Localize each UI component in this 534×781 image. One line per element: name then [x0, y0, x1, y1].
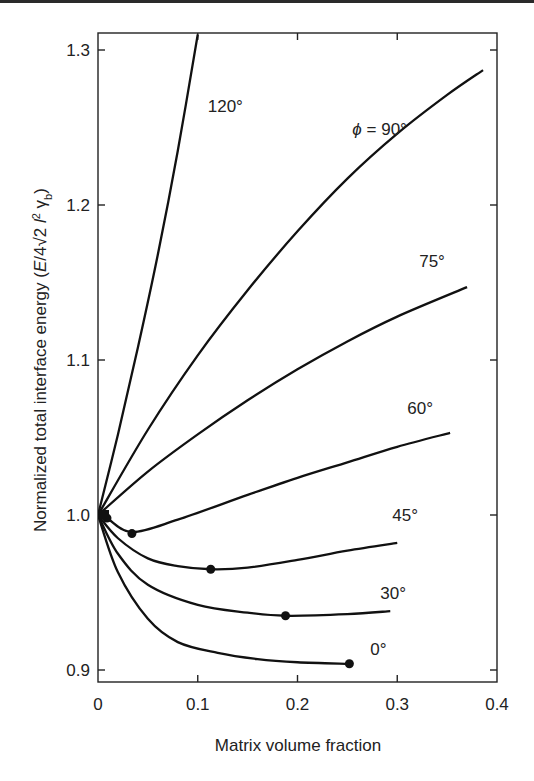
x-tick-label: 0.3 — [385, 695, 409, 714]
minimum-marker — [281, 611, 290, 620]
minimum-marker — [345, 659, 354, 668]
origin-cluster — [99, 510, 109, 519]
x-tick-label: 0 — [93, 695, 102, 714]
x-tick-label: 0.1 — [186, 695, 210, 714]
curve-0-deg — [98, 515, 349, 664]
curve-45-deg — [98, 515, 397, 569]
curve-label: 120° — [208, 97, 243, 116]
curve-120-deg — [98, 35, 198, 516]
curve-label: 60° — [407, 399, 433, 418]
curve-label: 0° — [370, 640, 386, 659]
minimum-marker — [206, 565, 215, 574]
y-tick-label: 1.1 — [66, 351, 90, 370]
y-tick-label: 0.9 — [66, 661, 90, 680]
x-tick-label: 0.2 — [286, 695, 310, 714]
curve-label: ϕ = 90° — [352, 120, 407, 139]
minimum-marker — [127, 529, 136, 538]
y-tick-label: 1.0 — [66, 506, 90, 525]
minimum-markers — [99, 510, 354, 668]
curve-label: 30° — [380, 584, 406, 603]
curves — [98, 35, 483, 664]
x-tick-label: 0.4 — [485, 695, 509, 714]
chart: 00.10.20.30.40.91.01.11.21.3 120°ϕ = 90°… — [0, 0, 534, 781]
curve-label: 75° — [419, 252, 445, 271]
curve-90-deg — [98, 70, 483, 515]
x-axis-title: Matrix volume fraction — [215, 736, 381, 755]
y-axis-title: Normalized total interface energy (E/4√2… — [30, 188, 54, 532]
curve-labels: 120°ϕ = 90°75°60°45°30°0° — [208, 97, 445, 659]
y-tick-label: 1.2 — [66, 196, 90, 215]
y-tick-label: 1.3 — [66, 41, 90, 60]
curve-label: 45° — [392, 506, 418, 525]
plot-frame — [98, 33, 497, 682]
